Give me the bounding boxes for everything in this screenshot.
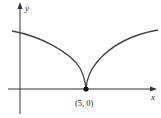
cusp-point-label: (5, 0)	[75, 98, 94, 108]
y-axis-arrow-icon	[18, 2, 23, 9]
curve-left-branch	[12, 31, 86, 89]
y-axis-label: y	[24, 3, 29, 13]
cusp-graph: y x (5, 0)	[0, 0, 161, 118]
x-axis-label: x	[150, 92, 155, 102]
x-axis-arrow-icon	[150, 87, 157, 92]
curve-right-branch	[86, 30, 158, 89]
cusp-point-marker	[83, 86, 88, 91]
